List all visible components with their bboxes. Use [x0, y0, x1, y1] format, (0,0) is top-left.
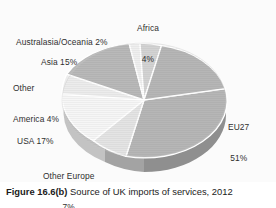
figure-container: Africa 4% Australasia/Oceania 2% Asia 15…: [0, 0, 276, 208]
pie-label-other-america-name: Other: [13, 83, 59, 93]
figure-caption: Figure 16.6(b) Source of UK imports of s…: [6, 186, 272, 198]
pie-label-other-europe-name: Other Europe: [43, 171, 94, 181]
pie-label-africa-value: 4%: [137, 54, 159, 64]
figure-caption-label: Figure 16.6(b): [6, 186, 67, 197]
figure-caption-text: Source of UK imports of services, 2012: [67, 186, 232, 197]
pie-label-eu27-value: 51%: [228, 153, 249, 163]
pie-label-eu27-name: EU27: [228, 122, 249, 132]
pie-label-other-europe-value: 7%: [43, 202, 94, 208]
pie-label-other-europe: Other Europe 7%: [43, 150, 94, 208]
pie-label-eu27: EU27 51%: [228, 101, 249, 184]
pie-label-africa: Africa 4%: [137, 2, 159, 85]
pie-label-usa-text: USA 17%: [17, 136, 54, 146]
chart-plot-area: Africa 4% Australasia/Oceania 2% Asia 15…: [0, 0, 276, 182]
pie-label-africa-name: Africa: [137, 23, 159, 33]
